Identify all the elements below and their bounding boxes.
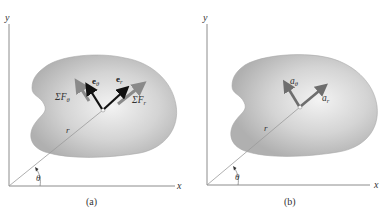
diagram-canvas: y x r θ eθ er ΣFθ ΣFr (a) y x r θ	[0, 0, 389, 218]
rigid-body-blob	[231, 55, 378, 157]
y-axis-label: y	[202, 12, 208, 23]
panel-a: y x r θ eθ er ΣFθ ΣFr (a)	[4, 12, 182, 208]
theta-arrowhead	[233, 166, 237, 171]
r-label: r	[66, 125, 70, 135]
panel-a-caption: (a)	[86, 196, 97, 208]
y-axis-label: y	[4, 12, 10, 23]
x-axis-label: x	[176, 180, 182, 191]
r-label: r	[264, 123, 268, 133]
theta-arrowhead	[35, 167, 39, 172]
theta-label: θ	[235, 172, 240, 182]
x-axis-label: x	[373, 179, 379, 190]
panel-b-caption: (b)	[284, 196, 296, 208]
rigid-body-blob	[31, 55, 177, 157]
panel-b: y x r θ aθ ar (b)	[202, 12, 379, 208]
theta-label: θ	[36, 173, 41, 183]
